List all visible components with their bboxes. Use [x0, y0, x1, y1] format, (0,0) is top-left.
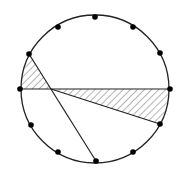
point-dot-7 — [55, 149, 61, 155]
point-dot-6 — [93, 158, 99, 164]
point-dot-3 — [167, 86, 173, 92]
point-dot-0 — [92, 14, 98, 20]
point-dot-1 — [130, 24, 136, 30]
point-dot-4 — [157, 121, 163, 127]
point-dot-10 — [26, 51, 32, 57]
point-dot-2 — [157, 50, 163, 56]
chord-upper-left-to-bottom — [29, 54, 96, 161]
left-hatched-region — [20, 54, 51, 89]
point-dot-5 — [130, 149, 136, 155]
point-dot-8 — [28, 122, 34, 128]
point-dot-9 — [17, 86, 23, 92]
circle-diagram — [0, 0, 187, 177]
point-dot-11 — [55, 24, 61, 30]
